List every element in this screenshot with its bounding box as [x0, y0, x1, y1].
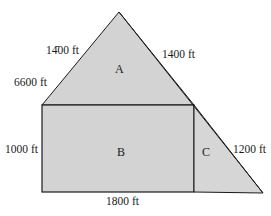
- label-base: 1800 ft: [106, 196, 139, 208]
- region-label-b: B: [117, 146, 125, 158]
- label-rect-height: 1000 ft: [5, 144, 38, 156]
- label-right-lower-slope: 1200 ft: [233, 144, 266, 156]
- label-right-upper-slope: 1400 ft: [162, 49, 195, 61]
- region-label-c: C: [202, 146, 210, 158]
- label-left-upper-slope: 14̄00 ft: [46, 45, 79, 57]
- region-label-a: A: [115, 63, 124, 75]
- figure-shapes: [0, 0, 271, 216]
- composite-figure-diagram: A B C 14̄00 ft 1400 ft 6600 ft 1000 ft 1…: [0, 0, 271, 216]
- label-left-lower-slope: 6600 ft: [14, 77, 47, 89]
